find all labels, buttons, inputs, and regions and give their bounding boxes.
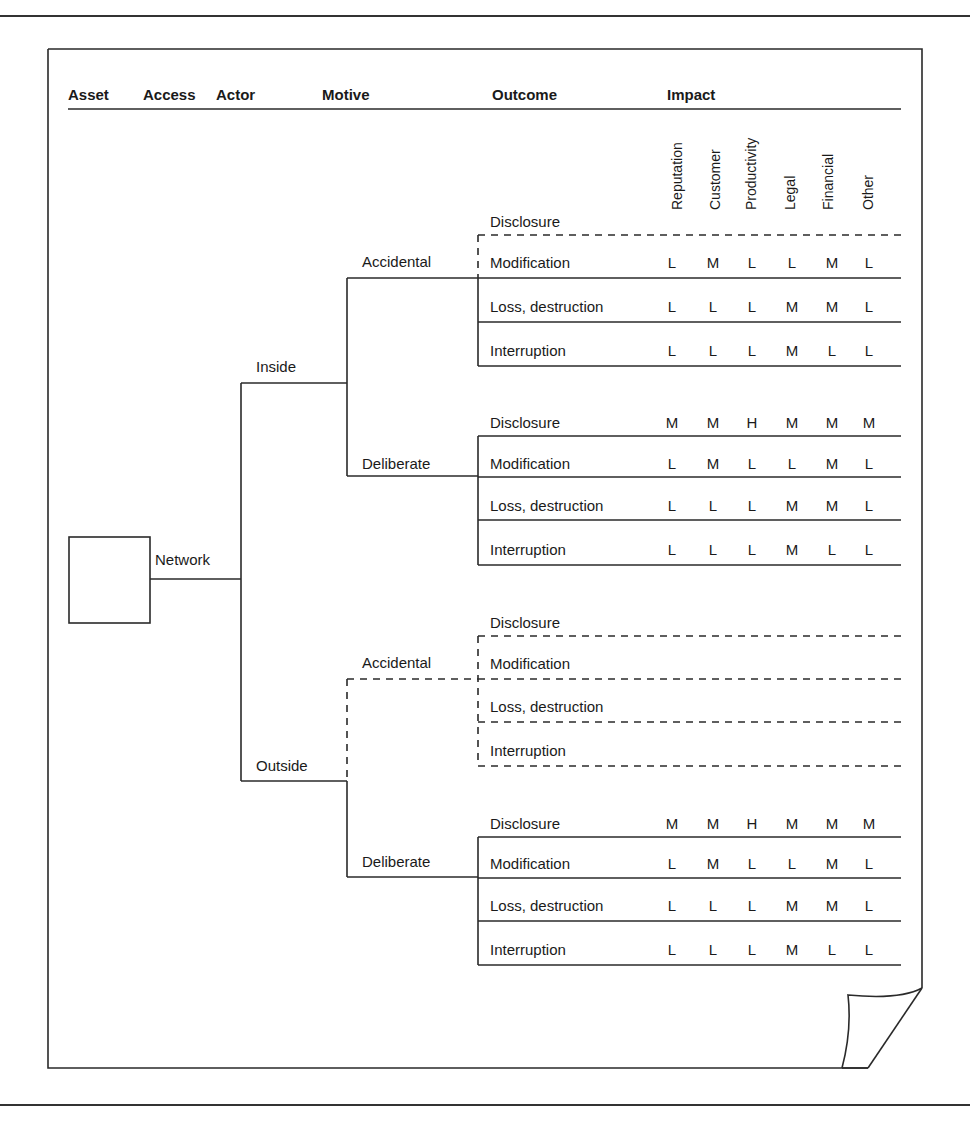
impact-value: L xyxy=(822,342,842,360)
outcome-label: Interruption xyxy=(490,541,566,559)
outcome-label: Modification xyxy=(490,655,570,673)
outcome-label: Disclosure xyxy=(490,815,560,833)
impact-value: L xyxy=(662,298,682,316)
outcome-label: Loss, destruction xyxy=(490,698,603,716)
impact-value: L xyxy=(742,298,762,316)
impact-value: L xyxy=(742,897,762,915)
impact-value: M xyxy=(859,414,879,432)
motive-outside-accidental-label: Accidental xyxy=(362,654,431,672)
outcome-label: Disclosure xyxy=(490,614,560,632)
actor-outside-label: Outside xyxy=(256,757,308,775)
impact-value: L xyxy=(662,342,682,360)
impact-value: M xyxy=(859,815,879,833)
outcome-label: Loss, destruction xyxy=(490,497,603,515)
outcome-label: Modification xyxy=(490,254,570,272)
header-impact: Impact xyxy=(667,86,715,104)
impact-value: L xyxy=(782,455,802,473)
impact-value: H xyxy=(742,414,762,432)
impact-value: L xyxy=(742,342,762,360)
impact-value: L xyxy=(662,897,682,915)
impact-value: M xyxy=(822,455,842,473)
impact-value: M xyxy=(662,414,682,432)
impact-value: L xyxy=(703,497,723,515)
outcome-label: Interruption xyxy=(490,342,566,360)
impact-value: M xyxy=(822,897,842,915)
impact-value: L xyxy=(742,855,762,873)
impact-value: L xyxy=(703,298,723,316)
impact-value: L xyxy=(859,298,879,316)
impact-value: M xyxy=(703,414,723,432)
actor-inside-label: Inside xyxy=(256,358,296,376)
impact-value: M xyxy=(662,815,682,833)
impact-value: L xyxy=(662,855,682,873)
impact-value: L xyxy=(742,541,762,559)
impact-value: L xyxy=(859,897,879,915)
impact-value: M xyxy=(822,298,842,316)
impact-value: M xyxy=(822,497,842,515)
impact-value: L xyxy=(742,497,762,515)
impact-value: M xyxy=(703,455,723,473)
impact-value: M xyxy=(782,342,802,360)
header-outcome: Outcome xyxy=(492,86,557,104)
impact-value: M xyxy=(782,815,802,833)
motive-inside-deliberate-label: Deliberate xyxy=(362,455,430,473)
impact-value: L xyxy=(742,941,762,959)
impact-col-reputation: Reputation xyxy=(669,142,685,210)
impact-value: L xyxy=(662,941,682,959)
impact-value: L xyxy=(859,541,879,559)
outcome-label: Disclosure xyxy=(490,414,560,432)
impact-value: L xyxy=(822,941,842,959)
impact-value: L xyxy=(859,855,879,873)
impact-value: L xyxy=(859,497,879,515)
impact-value: M xyxy=(822,254,842,272)
impact-col-financial: Financial xyxy=(820,154,836,210)
impact-value: M xyxy=(822,855,842,873)
impact-value: M xyxy=(703,855,723,873)
impact-value: M xyxy=(782,298,802,316)
impact-col-other: Other xyxy=(860,175,876,210)
impact-value: L xyxy=(742,254,762,272)
outcome-label: Loss, destruction xyxy=(490,897,603,915)
impact-value: L xyxy=(662,455,682,473)
impact-value: L xyxy=(859,941,879,959)
impact-value: L xyxy=(859,342,879,360)
outcome-label: Modification xyxy=(490,455,570,473)
motive-outside-deliberate-label: Deliberate xyxy=(362,853,430,871)
outcome-label: Loss, destruction xyxy=(490,298,603,316)
impact-value: L xyxy=(662,541,682,559)
impact-value: L xyxy=(662,497,682,515)
header-motive: Motive xyxy=(322,86,370,104)
impact-value: M xyxy=(782,541,802,559)
impact-col-customer: Customer xyxy=(707,149,723,210)
impact-value: M xyxy=(703,815,723,833)
impact-value: M xyxy=(822,815,842,833)
impact-value: L xyxy=(822,541,842,559)
header-asset: Asset xyxy=(68,86,109,104)
impact-value: L xyxy=(703,342,723,360)
impact-col-productivity: Productivity xyxy=(743,138,759,210)
outcome-label: Interruption xyxy=(490,941,566,959)
impact-value: L xyxy=(782,855,802,873)
impact-value: M xyxy=(782,941,802,959)
asset-box xyxy=(69,537,150,623)
impact-value: M xyxy=(703,254,723,272)
impact-value: L xyxy=(703,941,723,959)
impact-value: M xyxy=(782,897,802,915)
outcome-label: Interruption xyxy=(490,742,566,760)
outcome-label: Disclosure xyxy=(490,213,560,231)
header-actor: Actor xyxy=(216,86,255,104)
impact-value: L xyxy=(703,897,723,915)
access-network-label: Network xyxy=(155,551,210,569)
impact-value: L xyxy=(662,254,682,272)
impact-value: L xyxy=(859,254,879,272)
impact-value: L xyxy=(742,455,762,473)
impact-col-legal: Legal xyxy=(782,176,798,210)
impact-value: L xyxy=(703,541,723,559)
outcome-label: Modification xyxy=(490,855,570,873)
impact-value: H xyxy=(742,815,762,833)
impact-value: L xyxy=(859,455,879,473)
motive-inside-accidental-label: Accidental xyxy=(362,253,431,271)
impact-value: M xyxy=(782,497,802,515)
impact-value: M xyxy=(822,414,842,432)
header-access: Access xyxy=(143,86,196,104)
